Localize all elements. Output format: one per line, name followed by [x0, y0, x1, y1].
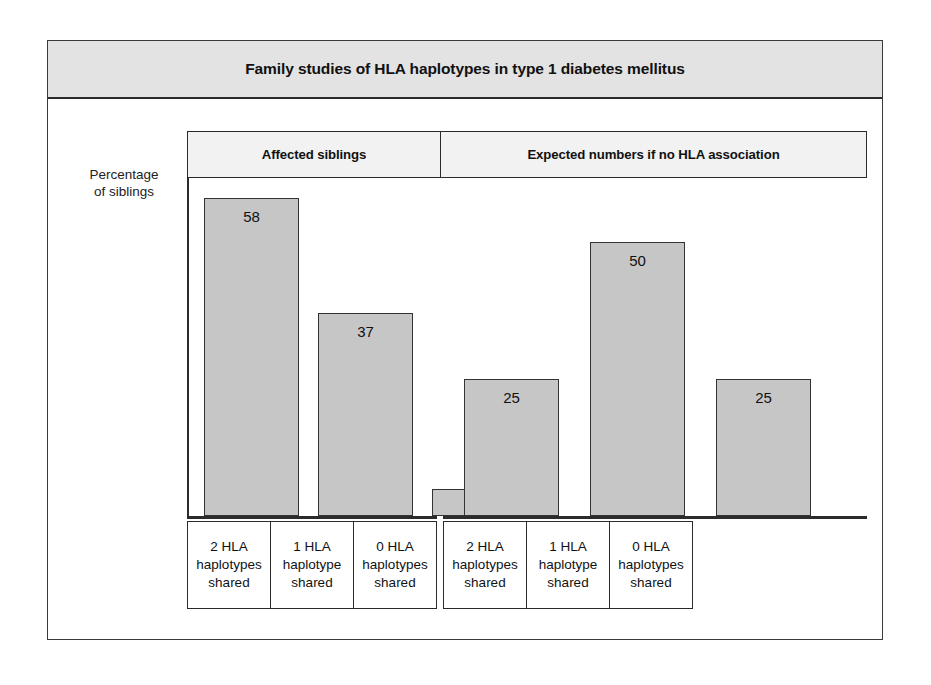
category-label-affected-2: 2 HLA haplotypes shared: [187, 521, 271, 609]
bar-value-label: 25: [717, 389, 810, 406]
category-line-2: haplotype: [539, 556, 598, 574]
y-axis-label: Percentage of siblings: [66, 166, 182, 200]
group-header-label: Affected siblings: [262, 147, 367, 162]
category-label-affected-0: 0 HLA haplotypes shared: [353, 521, 437, 609]
category-line-2: haplotypes: [362, 556, 427, 574]
category-label-affected-1: 1 HLA haplotype shared: [270, 521, 354, 609]
bar-affected-1-haplotype: 37: [318, 313, 413, 516]
category-line-1: 2 HLA: [466, 538, 504, 556]
bar-panel-affected-siblings: 58 37 5: [187, 178, 437, 516]
page-title: Family studies of HLA haplotypes in type…: [245, 60, 685, 78]
bar-value-label: 25: [465, 389, 558, 406]
bar-value-label: 37: [319, 323, 412, 340]
category-line-2: haplotype: [283, 556, 342, 574]
category-line-1: 2 HLA: [210, 538, 248, 556]
category-label-expected-2: 2 HLA haplotypes shared: [443, 521, 527, 609]
category-line-3: shared: [464, 574, 505, 592]
category-line-3: shared: [208, 574, 249, 592]
bar-panel-expected-numbers: 25 50 25: [443, 178, 867, 516]
group-header-expected-numbers: Expected numbers if no HLA association: [440, 131, 867, 178]
bar-value-label: 50: [591, 252, 684, 269]
y-axis-label-line-1: Percentage: [66, 166, 182, 183]
category-line-3: shared: [547, 574, 588, 592]
category-line-3: shared: [374, 574, 415, 592]
bar-expected-0-haplotypes: 25: [716, 379, 811, 516]
figure-title-banner: Family studies of HLA haplotypes in type…: [48, 41, 882, 99]
category-line-2: haplotypes: [196, 556, 261, 574]
x-axis-baseline-left: [187, 516, 437, 519]
bar-expected-2-haplotypes: 25: [464, 379, 559, 516]
category-line-1: 0 HLA: [632, 538, 670, 556]
bar-affected-2-haplotypes: 58: [204, 198, 299, 516]
x-axis-baseline-right: [443, 516, 867, 519]
category-line-1: 1 HLA: [549, 538, 587, 556]
category-label-expected-1: 1 HLA haplotype shared: [526, 521, 610, 609]
group-header-affected-siblings: Affected siblings: [187, 131, 440, 178]
group-header-label: Expected numbers if no HLA association: [527, 147, 779, 162]
category-label-expected-0: 0 HLA haplotypes shared: [609, 521, 693, 609]
category-line-3: shared: [291, 574, 332, 592]
category-line-2: haplotypes: [618, 556, 683, 574]
y-axis-label-line-2: of siblings: [66, 183, 182, 200]
category-line-1: 1 HLA: [293, 538, 331, 556]
bar-expected-1-haplotype: 50: [590, 242, 685, 516]
category-line-1: 0 HLA: [376, 538, 414, 556]
plot-area: Affected siblings Expected numbers if no…: [187, 131, 867, 611]
category-line-2: haplotypes: [452, 556, 517, 574]
category-line-3: shared: [630, 574, 671, 592]
bar-value-label: 58: [205, 208, 298, 225]
figure-frame: Family studies of HLA haplotypes in type…: [47, 40, 883, 640]
